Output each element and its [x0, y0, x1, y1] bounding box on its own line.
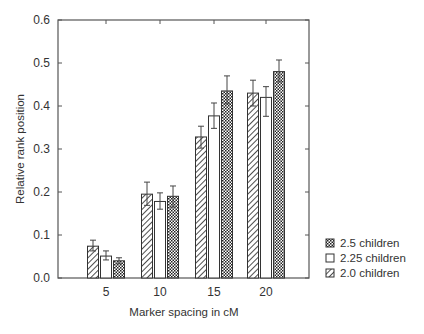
bar [209, 116, 220, 278]
x-tick-label: 15 [207, 285, 221, 299]
y-axis-label: Relative rank position [14, 94, 26, 204]
legend-swatch [326, 239, 334, 247]
bar [142, 194, 153, 278]
y-tick-label: 0.0 [33, 271, 50, 285]
legend: 2.5 children2.25 children2.0 children [326, 237, 406, 279]
y-tick-label: 0.1 [33, 228, 50, 242]
x-tick-label: 20 [259, 285, 273, 299]
legend-label: 2.5 children [340, 237, 399, 249]
bar-chart: 0.00.10.20.30.40.50.6 5101520 Marker spa… [0, 0, 424, 334]
x-tick-label: 10 [153, 285, 167, 299]
legend-label: 2.25 children [340, 252, 406, 264]
legend-swatch [326, 269, 334, 277]
bar [248, 93, 259, 278]
bar [155, 201, 166, 278]
y-tick-label: 0.2 [33, 185, 50, 199]
x-axis-label: Marker spacing in cM [129, 306, 238, 318]
y-tick-label: 0.5 [33, 56, 50, 70]
legend-label: 2.0 children [340, 267, 399, 279]
y-tick-label: 0.3 [33, 142, 50, 156]
bar [222, 91, 233, 278]
bar [274, 72, 285, 278]
bar [168, 196, 179, 278]
y-tick-label: 0.4 [33, 99, 50, 113]
legend-swatch [326, 254, 334, 262]
bar [261, 97, 272, 278]
bar [196, 137, 207, 278]
x-tick-label: 5 [103, 285, 110, 299]
y-tick-label: 0.6 [33, 13, 50, 27]
bars [88, 60, 285, 278]
